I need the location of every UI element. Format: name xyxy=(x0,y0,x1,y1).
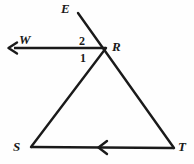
angle-label-1: 1 xyxy=(80,52,86,64)
vertex-label-r: R xyxy=(112,40,121,53)
vertex-label-e: E xyxy=(61,2,70,15)
figure-drawing-canvas xyxy=(0,0,194,164)
angle-label-2: 2 xyxy=(79,35,85,47)
vertex-label-t: T xyxy=(178,140,186,153)
figure-background xyxy=(0,0,194,164)
segment-S-T xyxy=(31,147,174,148)
vertex-label-w: W xyxy=(19,33,31,46)
geometry-figure: E W R S T 2 1 xyxy=(0,0,194,164)
vertex-label-s: S xyxy=(13,140,20,153)
